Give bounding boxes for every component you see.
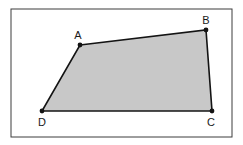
vertex-label-c: C xyxy=(207,116,215,128)
vertex-label-a: A xyxy=(74,29,82,41)
vertex-dot-d xyxy=(40,109,45,114)
geometry-figure: A B C D xyxy=(0,0,243,145)
vertex-label-b: B xyxy=(202,14,210,26)
vertex-label-d: D xyxy=(38,116,46,128)
vertex-dot-c xyxy=(210,109,215,114)
vertex-dot-b xyxy=(204,28,209,33)
geometry-canvas: A B C D xyxy=(0,0,243,145)
vertex-dot-a xyxy=(78,43,83,48)
